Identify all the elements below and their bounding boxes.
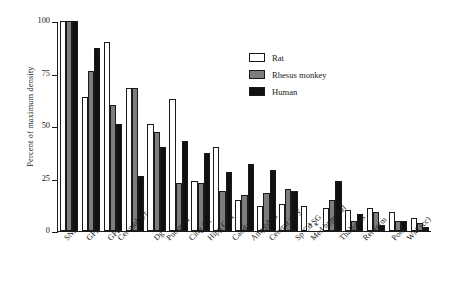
bar <box>72 21 78 231</box>
bar <box>94 48 100 231</box>
x-axis-tick-labels: SNrGPiGPeCer mol lyrDgPutamenCing CxHipp… <box>58 234 431 296</box>
x-tick-cell: Med hypothal <box>321 234 343 296</box>
y-tick-mark <box>52 22 57 23</box>
x-tick-cell: Thalamus <box>343 234 365 296</box>
y-tick-label: 50 <box>42 121 50 130</box>
x-tick-cell: GPe <box>102 234 124 296</box>
legend-item-human: Human <box>249 84 327 99</box>
x-tick-cell: Ret form <box>365 234 387 296</box>
x-tick-cell: Central gray <box>277 234 299 296</box>
bar-chart-figure: Percent of maximum density 0255075100 **… <box>0 0 450 298</box>
x-tick-cell: Amygdala <box>255 234 277 296</box>
x-tick-cell: Hipp CA1 <box>212 234 234 296</box>
plot-area: 0255075100 ** <box>57 22 431 232</box>
chart-legend: Rat Rhesus monkey Human <box>249 50 327 101</box>
y-axis-title: Percent of maximum density <box>26 12 35 222</box>
x-tick-cell: Dg <box>146 234 168 296</box>
legend-swatch-rhesus-monkey <box>249 70 265 79</box>
x-tick-cell: Cing Cx <box>190 234 212 296</box>
legend-label-rat: Rat <box>272 53 284 63</box>
bar-group <box>80 21 102 231</box>
x-tick-cell: Putamen <box>168 234 190 296</box>
x-tick-cell: WM (cc) <box>409 234 431 296</box>
bar-group <box>387 21 409 231</box>
legend-item-rat: Rat <box>249 50 327 65</box>
x-tick-cell: Pons <box>387 234 409 296</box>
y-tick-mark <box>52 180 57 181</box>
bar-group <box>365 21 387 231</box>
x-tick-cell: SNr <box>58 234 80 296</box>
bar-group <box>343 21 365 231</box>
x-tick-cell: Sp Cd SG <box>299 234 321 296</box>
x-tick-cell: GPi <box>80 234 102 296</box>
bar-group <box>58 21 80 231</box>
bar-group <box>124 21 146 231</box>
legend-swatch-human <box>249 87 265 96</box>
x-tick-cell: Cer mol lyr <box>124 234 146 296</box>
legend-swatch-rat <box>249 53 265 62</box>
x-tick-cell: Caudate <box>234 234 256 296</box>
bar-group <box>409 21 431 231</box>
y-tick-mark <box>52 232 57 233</box>
bar-group <box>190 21 212 231</box>
legend-item-rhesus-monkey: Rhesus monkey <box>249 67 327 82</box>
bar <box>160 147 166 231</box>
y-tick-label: 25 <box>42 174 50 183</box>
y-tick-label: 100 <box>37 16 50 25</box>
y-tick-mark <box>52 75 57 76</box>
bar-group <box>212 21 234 231</box>
bar <box>116 124 122 231</box>
y-tick-mark <box>52 127 57 128</box>
y-tick-label: 0 <box>46 226 50 235</box>
bar-group <box>146 21 168 231</box>
bar-group <box>168 21 190 231</box>
y-tick-label: 75 <box>42 69 50 78</box>
legend-label-human: Human <box>272 87 297 97</box>
legend-label-rhesus-monkey: Rhesus monkey <box>272 70 327 80</box>
bar-groups: ** <box>58 21 431 231</box>
bar-group <box>102 21 124 231</box>
